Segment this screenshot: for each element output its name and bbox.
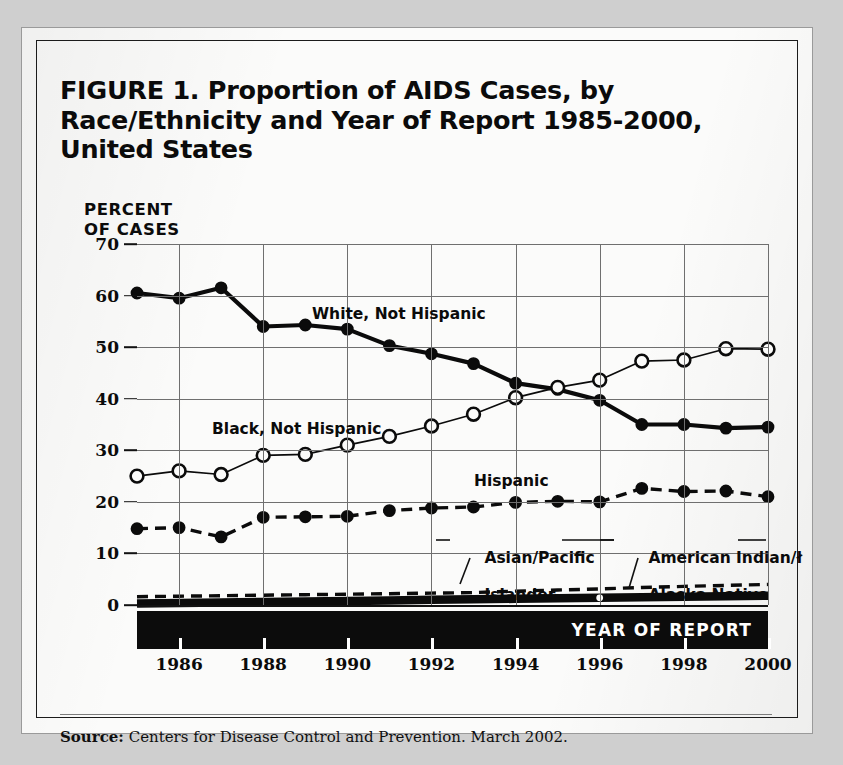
series-line-2 — [137, 488, 768, 537]
source-note: Source: Centers for Disease Control and … — [60, 728, 568, 746]
x-axis-band-label: YEAR OF REPORT — [572, 620, 752, 640]
data-point — [720, 485, 731, 496]
y-axis-tick — [124, 398, 137, 400]
x-axis-band-tick — [263, 638, 266, 649]
gridline-horizontal — [137, 244, 768, 245]
data-point — [383, 430, 396, 443]
data-point — [300, 511, 311, 522]
series-label-white: White, Not Hispanic — [312, 305, 486, 323]
x-axis-band-tick — [347, 638, 350, 649]
data-point — [551, 381, 564, 394]
x-axis-band-tick — [768, 638, 771, 649]
x-axis-band-tick — [179, 638, 182, 649]
x-axis-tick-label: 1996 — [576, 654, 623, 674]
x-axis-tick-label: 1986 — [155, 654, 202, 674]
data-point — [131, 470, 144, 483]
data-point — [468, 358, 479, 369]
source-text: Centers for Disease Control and Preventi… — [129, 728, 568, 746]
series-label-asian-pacific-islander: Asian/Pacific Islander — [452, 531, 595, 622]
y-axis-tick-label: 30 — [95, 440, 119, 460]
data-point — [131, 287, 142, 298]
gridline-horizontal — [137, 347, 768, 348]
x-axis-tick-label: 1988 — [240, 654, 287, 674]
series-line-1 — [137, 349, 768, 476]
data-point — [636, 483, 647, 494]
y-axis-tick — [124, 604, 137, 606]
y-axis-tick — [124, 346, 137, 348]
y-axis-tick-label: 0 — [107, 595, 119, 615]
x-axis-band-tick — [684, 638, 687, 649]
data-point — [131, 523, 142, 534]
series-label-black: Black, Not Hispanic — [212, 420, 381, 438]
y-axis-tick — [124, 553, 137, 555]
x-axis-band-tick — [600, 638, 603, 649]
y-axis-tick — [124, 243, 137, 245]
series-label-american-indian-alaska-native: American Indian/ł Alaska Native — [616, 531, 802, 622]
data-point — [468, 501, 479, 512]
y-axis-tick-label: 70 — [95, 234, 119, 254]
gridline-horizontal — [137, 502, 768, 503]
gridline-horizontal — [137, 399, 768, 400]
y-axis-tick — [124, 295, 137, 297]
data-point — [216, 282, 227, 293]
y-axis-tick-label: 60 — [95, 286, 119, 306]
y-axis-tick-label: 10 — [95, 543, 119, 563]
y-axis-tick — [124, 449, 137, 451]
page-title: FIGURE 1. Proportion of AIDS Cases, by R… — [60, 76, 760, 165]
series-label-asian-line2: Islander — [484, 586, 555, 604]
figure-page: FIGURE 1. Proportion of AIDS Cases, by R… — [0, 0, 843, 765]
series-label-asian-line1: Asian/Pacific — [484, 549, 594, 567]
paper-sheet: FIGURE 1. Proportion of AIDS Cases, by R… — [22, 28, 812, 733]
gridline-vertical — [600, 244, 601, 605]
data-point — [720, 342, 733, 355]
data-point — [300, 319, 311, 330]
series-label-amind-line1: American Indian/ł — [648, 549, 802, 567]
series-label-hispanic: Hispanic — [474, 472, 549, 490]
data-point — [384, 340, 395, 351]
data-point — [635, 355, 648, 368]
data-point — [467, 408, 480, 421]
y-axis-tick-label: 20 — [95, 492, 119, 512]
data-point — [636, 419, 647, 430]
gridline-vertical — [179, 244, 180, 605]
data-point — [384, 505, 395, 516]
y-axis-tick — [124, 501, 137, 503]
series-label-amind-line2: Alaska Native — [648, 586, 768, 604]
gridline-vertical — [431, 244, 432, 605]
data-point — [216, 531, 227, 542]
x-axis-tick-label: 1992 — [408, 654, 455, 674]
x-axis-tick-label: 2000 — [744, 654, 791, 674]
y-axis-tick-label: 40 — [95, 389, 119, 409]
data-point — [215, 468, 228, 481]
gridline-horizontal — [137, 296, 768, 297]
data-point — [720, 423, 731, 434]
source-divider — [60, 714, 772, 715]
source-label: Source: — [60, 728, 124, 746]
x-axis-tick-label: 1994 — [492, 654, 539, 674]
gridline-horizontal — [137, 450, 768, 451]
x-axis-band-tick — [431, 638, 434, 649]
x-axis-tick-label: 1998 — [660, 654, 707, 674]
y-axis-tick-label: 50 — [95, 337, 119, 357]
x-axis-tick-label: 1990 — [324, 654, 371, 674]
y-axis-title-line1: PERCENT — [84, 200, 180, 220]
x-axis-band-tick — [516, 638, 519, 649]
